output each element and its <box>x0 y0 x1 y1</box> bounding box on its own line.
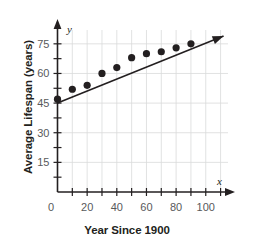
data-point <box>187 40 194 47</box>
y-tick-label: 30 <box>37 127 49 139</box>
y-tick-label: 60 <box>37 67 49 79</box>
data-point <box>54 96 61 103</box>
data-points <box>54 40 195 103</box>
best-fit-line <box>58 36 224 103</box>
data-point <box>84 82 91 89</box>
y-tick-label: 75 <box>37 38 49 50</box>
data-point <box>158 48 165 55</box>
axis-tick-labels: 204060801001530456075 <box>37 38 215 213</box>
y-tick-label: 45 <box>37 97 49 109</box>
data-point <box>143 50 150 57</box>
gridlines <box>58 30 229 192</box>
axis-ticks <box>54 44 221 196</box>
data-point <box>113 64 120 71</box>
y-axis-variable-label: y <box>66 23 72 35</box>
x-tick-label: 100 <box>197 201 215 213</box>
x-tick-label: 20 <box>81 201 93 213</box>
x-tick-label: 60 <box>140 201 152 213</box>
trend-line-arrowhead <box>212 36 224 44</box>
x-axis-variable-label: x <box>216 175 222 187</box>
data-point <box>69 86 76 93</box>
x-axis-title: Year Since 1900 <box>0 224 254 236</box>
trend-line <box>58 36 224 103</box>
scatter-plot: 204060801001530456075 0 y x <box>0 0 254 249</box>
data-point <box>128 54 135 61</box>
axis-lines <box>54 19 235 196</box>
x-tick-label: 80 <box>170 201 182 213</box>
data-point <box>173 44 180 51</box>
origin-tick-label: 0 <box>48 201 54 213</box>
y-tick-label: 15 <box>37 156 49 168</box>
data-point <box>98 70 105 77</box>
x-tick-label: 40 <box>111 201 123 213</box>
chart-figure: Average Lifespan (years) 204060801001530… <box>0 0 254 249</box>
